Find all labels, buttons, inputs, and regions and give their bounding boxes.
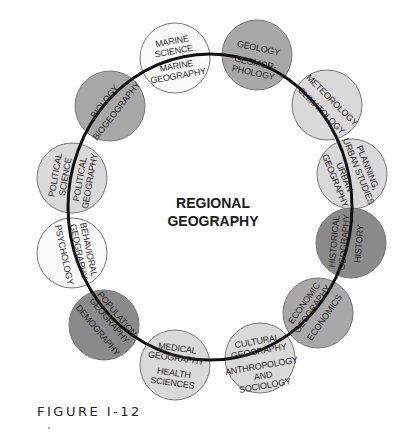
discipline-circle-meteorology (292, 70, 362, 140)
page-mark (48, 427, 50, 429)
center-title-line-1: REGIONAL (176, 195, 250, 211)
figure-caption: FIGURE I-12 (37, 404, 142, 419)
center-title-line-2: GEOGRAPHY (167, 213, 259, 229)
disciplines-diagram: MARINESCIENCEMARINEGEOGRAPHYGEOLOGYGEOMO… (0, 0, 419, 432)
